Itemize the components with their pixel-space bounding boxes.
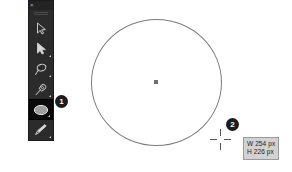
ellipse-icon (33, 104, 49, 116)
tool-pen[interactable] (29, 79, 53, 99)
arrow-cursor-icon (36, 22, 47, 35)
tooltip-width-value: W 254 px (247, 140, 275, 148)
tool-flyout-indicator-icon (48, 115, 50, 117)
crosshair-arm-top (220, 129, 221, 136)
tool-lasso[interactable] (29, 59, 53, 79)
crosshair-arm-bottom (220, 143, 221, 150)
close-icon[interactable]: × (30, 2, 34, 8)
tool-ellipse[interactable] (29, 99, 53, 119)
dimension-tooltip: W 254 px H 226 px (243, 137, 279, 160)
shape-center-anchor-point (154, 80, 158, 84)
tool-flyout-indicator-icon (49, 55, 51, 57)
filled-arrow-cursor-icon (36, 42, 47, 55)
paintbrush-icon (34, 123, 48, 136)
annotation-marker-1: 1 (55, 95, 68, 108)
tooltip-height-value: H 226 px (247, 148, 275, 156)
crosshair-arm-left (210, 139, 217, 140)
tool-direct-selection[interactable] (29, 39, 53, 59)
tool-flyout-indicator-icon (49, 95, 51, 97)
crosshair-arm-right (224, 139, 231, 140)
annotation-marker-2: 2 (226, 118, 239, 131)
tool-flyout-indicator-icon (49, 136, 51, 138)
panel-drag-grip[interactable] (34, 12, 48, 17)
application-window: × (0, 0, 292, 172)
tool-flyout-indicator-icon (49, 75, 51, 77)
pen-nib-icon (34, 83, 48, 96)
crosshair-cursor (210, 129, 231, 150)
tool-paintbrush[interactable] (29, 120, 53, 140)
lasso-icon (34, 63, 48, 76)
tools-panel: × (28, 0, 54, 141)
tool-selection[interactable] (29, 18, 53, 38)
tools-panel-header: × (29, 1, 53, 10)
